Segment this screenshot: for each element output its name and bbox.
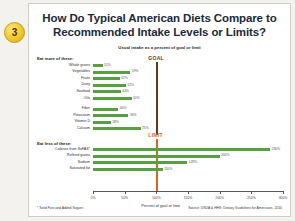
bar-value-label: 280% [272,148,280,151]
bar-category-label: Vitamin D [29,120,90,124]
bar-category-label: Fruits [29,77,90,81]
bar-category-label: Potassium [29,114,90,118]
x-axis-tick-label: 300% [279,196,288,200]
bar-category-label: Oils [29,97,90,101]
bar-value-label: 149% [189,161,197,164]
bar-value-label: 61% [133,97,140,100]
slide-number-text: 3 [12,28,18,38]
bar-category-label: Refined grains [29,154,90,158]
limit-reference-label: LIMIT [148,132,163,138]
bar [93,161,187,164]
bar-value-label: 200% [221,154,229,157]
bar [93,71,130,74]
x-axis-tick [125,191,126,194]
bar-category-label: Seafood [29,90,90,94]
bar-value-label: 110% [164,168,172,171]
chart-plot-area: Eat more of these: GOAL Eat less of thes… [29,56,292,206]
bar [93,155,220,158]
bar [93,148,270,151]
bar-category-label: Whole grains [29,64,90,68]
goal-reference-label: GOAL [148,55,164,61]
chart-subtitle: Usual intake as a percent of goal or lim… [29,45,290,50]
x-axis-tick-label: 100% [152,196,161,200]
bar-value-label: 75% [142,127,149,130]
bar [93,97,132,100]
goal-reference-line [156,62,157,135]
bar [93,77,120,80]
bar-category-label: Calories from SoFAS* [29,148,90,152]
page-title: How Do Typical American Diets Compare to… [39,11,280,39]
bar-value-label: 52% [127,84,134,87]
x-axis-tick [283,191,284,194]
bar-value-label: 44% [122,90,129,93]
bar-value-label: 56% [130,114,137,117]
group-heading-eat-more: Eat more of these: [37,56,74,61]
bar [93,127,141,130]
bar-category-label: Dairy [29,83,90,87]
x-axis-tick [251,191,252,194]
bar-category-label: Vegetables [29,70,90,74]
x-axis-tick-label: 0% [91,196,96,200]
bar-category-label: Saturated fat [29,167,90,171]
bar-category-label: Calcium [29,127,90,131]
x-axis-tick-label: 150% [184,196,193,200]
source-citation: Source: USDA & HHS: Dietary Guidelines f… [188,206,282,210]
bar [93,168,163,171]
bar-category-label: Fiber [29,107,90,111]
bar [93,121,111,124]
bar [93,84,126,87]
x-axis-tick-label: 250% [247,196,256,200]
slide-number-badge: 3 [4,22,25,43]
bar-category-label: Sodium [29,161,90,165]
x-axis-tick [156,191,157,194]
bar-value-label: 15% [104,64,111,67]
x-axis-tick-label: 200% [215,196,224,200]
group-heading-eat-less: Eat less of these: [37,141,71,146]
bar [93,108,118,111]
x-axis-tick [220,191,221,194]
limit-reference-line [156,139,157,191]
bar-value-label: 40% [120,107,127,110]
x-axis-tick [188,191,189,194]
bar-value-label: 59% [132,70,139,73]
slide-frame: How Do Typical American Diets Compare to… [28,3,291,217]
x-axis-tick [93,191,94,194]
bar-value-label: 42% [121,77,128,80]
bar [93,114,128,117]
bar [93,90,121,93]
footnote: * Solid Fats and Added Sugars [37,206,83,210]
x-axis-tick-label: 50% [121,196,128,200]
bar [93,64,103,67]
bar-value-label: 28% [112,121,119,124]
